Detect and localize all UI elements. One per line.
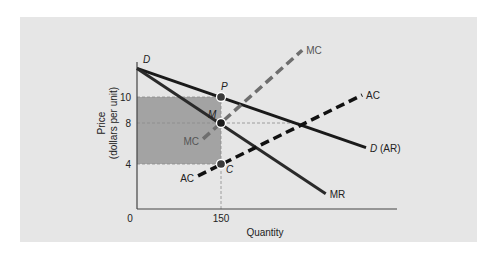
point-label-m: M xyxy=(208,109,217,120)
point-m xyxy=(217,119,226,128)
svg-text:Price: Price xyxy=(96,111,107,134)
point-label-c: C xyxy=(226,164,234,175)
y-tick-label: 4 xyxy=(125,159,131,170)
x-axis-label: Quantity xyxy=(246,227,283,238)
series-start-label-ac: AC xyxy=(180,173,194,184)
svg-text:(dollars per unit): (dollars per unit) xyxy=(108,87,119,159)
point-c xyxy=(217,160,226,169)
point-label-p: P xyxy=(221,81,228,92)
chart-panel xyxy=(20,17,477,242)
demand-intercept-label: D xyxy=(143,54,150,65)
series-label-demand: D (AR) xyxy=(370,143,401,154)
series-start-label-mc: MC xyxy=(184,136,200,147)
y-tick-label: 8 xyxy=(125,118,131,129)
series-label-mc: MC xyxy=(306,45,322,56)
series-label-ac: AC xyxy=(366,90,380,101)
monopoly-profit-chart: D (AR)MRMCMCACACD PMC 10840150 Quantity … xyxy=(0,0,494,256)
point-p xyxy=(217,93,226,102)
x-tick-label: 150 xyxy=(213,213,230,224)
profit-shaded-region xyxy=(137,97,221,164)
series-label-mr: MR xyxy=(330,189,346,200)
y-tick-label: 10 xyxy=(120,92,132,103)
x-tick-label: 0 xyxy=(127,213,133,224)
